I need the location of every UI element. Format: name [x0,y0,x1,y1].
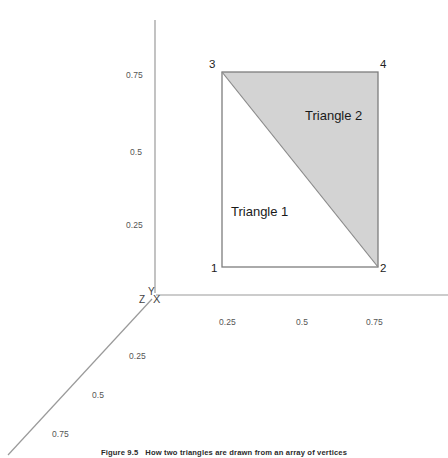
figure-container: Y Z X 0.75 0.5 0.25 0.25 0.5 0.75 0.25 0… [0,0,448,458]
z-axis-label: Z [139,294,145,305]
vertex-label-3: 3 [209,58,215,70]
figure-caption: Figure 9.5How two triangles are drawn fr… [0,447,448,458]
z-tick-0: 0.25 [129,351,146,361]
y-tick-1: 0.5 [130,147,142,157]
x-tick-1: 0.5 [296,317,308,327]
figure-caption-number: Figure 9.5 [101,448,138,457]
triangle-1-label: Triangle 1 [231,204,288,219]
x-tick-2: 0.75 [366,317,383,327]
vertex-label-2: 2 [380,262,386,274]
x-axis-label: X [153,293,160,305]
y-tick-0: 0.75 [126,70,143,80]
z-tick-1: 0.5 [92,390,104,400]
figure-caption-text: How two triangles are drawn from an arra… [145,448,347,457]
z-tick-2: 0.75 [52,429,69,439]
z-axis-line [8,299,152,455]
x-tick-0: 0.25 [219,317,236,327]
vertex-label-4: 4 [380,58,386,70]
y-tick-2: 0.25 [126,220,143,230]
vertex-label-1: 1 [211,262,217,274]
triangle-2-label: Triangle 2 [305,108,362,123]
